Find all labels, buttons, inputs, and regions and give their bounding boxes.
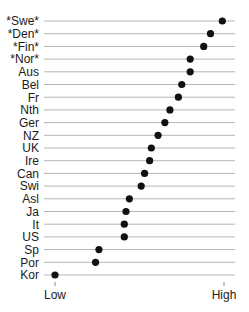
data-point <box>92 259 99 266</box>
data-row: Ger <box>19 116 235 130</box>
data-point <box>141 170 148 177</box>
data-point <box>187 68 194 75</box>
data-row: *Fin* <box>13 40 235 54</box>
data-row: NZ <box>23 129 235 143</box>
data-point <box>121 233 128 240</box>
data-row: Asl <box>22 192 235 206</box>
dot-plot-chart: *Swe**Den**Fin**Nor*AusBelFrNthGerNZUKIr… <box>0 0 249 312</box>
data-row: Swi <box>20 179 235 193</box>
data-point <box>148 144 155 151</box>
data-row: Bel <box>22 78 235 92</box>
data-point <box>121 221 128 228</box>
data-point <box>166 106 173 113</box>
data-point <box>178 81 185 88</box>
data-point <box>126 195 133 202</box>
data-point <box>154 132 161 139</box>
data-row: Kor <box>20 268 235 282</box>
data-row: Nth <box>20 103 235 117</box>
data-point <box>138 183 145 190</box>
data-point <box>51 271 58 278</box>
data-row: Sp <box>24 243 235 257</box>
chart-rows: *Swe**Den**Fin**Nor*AusBelFrNthGerNZUKIr… <box>6 14 235 282</box>
data-point <box>175 94 182 101</box>
category-label: Kor <box>20 268 39 282</box>
x-axis: Low High <box>44 282 236 302</box>
x-tick-label-low: Low <box>44 288 66 302</box>
data-point <box>200 43 207 50</box>
data-point <box>95 246 102 253</box>
data-row: Fr <box>28 91 235 105</box>
data-row: Aus <box>18 65 235 79</box>
data-row: *Swe* <box>6 14 235 28</box>
data-point <box>146 157 153 164</box>
data-point <box>187 56 194 63</box>
x-tick-label-high: High <box>212 288 237 302</box>
data-row: It <box>32 218 235 232</box>
data-point <box>207 30 214 37</box>
data-row: US <box>22 230 235 244</box>
data-row: *Den* <box>8 27 235 41</box>
data-row: Ja <box>26 205 235 219</box>
data-row: Ire <box>25 154 235 168</box>
data-row: *Nor* <box>10 52 235 66</box>
data-point <box>219 17 226 24</box>
data-row: Por <box>20 256 235 270</box>
data-point <box>161 119 168 126</box>
data-row: UK <box>22 141 235 155</box>
data-row: Can <box>17 167 235 181</box>
data-point <box>122 208 129 215</box>
